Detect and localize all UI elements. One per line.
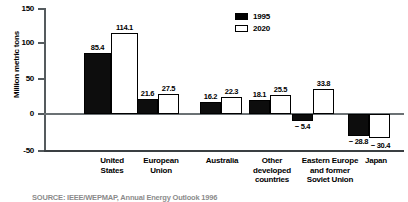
bar-value-2020-united-states: 114.1 [102, 23, 147, 32]
legend-swatch-1995-icon [235, 13, 248, 20]
y-tick-label-0: 0 [8, 109, 34, 118]
x-category-label-japan: Japan [348, 156, 404, 166]
bar-2020-european-union [158, 94, 179, 114]
bar-2020-other-developed-countries [270, 95, 291, 114]
bar-value-2020-european-union: 27.5 [147, 84, 190, 93]
bar-1995-japan [348, 114, 369, 136]
bar-1995-united-states [84, 53, 111, 114]
x-category-line: European [129, 156, 193, 166]
y-axis-title: Million metric tons [12, 5, 21, 125]
x-category-line: Union [129, 166, 193, 176]
y-tick-label-neg50: -50 [8, 146, 34, 155]
bar-1995-other-developed-countries [249, 100, 270, 114]
x-category-label-european-union: European Union [129, 156, 193, 175]
source-note: SOURCE: IEEE/WEPMAP, Annual Energy Outlo… [32, 193, 217, 202]
y-tick-label-100: 100 [8, 38, 34, 47]
bar-value-2020-eastern-europe: 33.8 [302, 79, 345, 88]
x-axis-line [44, 150, 404, 152]
bar-1995-australia [200, 102, 221, 114]
chart-legend: 1995 2020 [235, 10, 270, 34]
legend-item-1995: 1995 [235, 10, 270, 22]
legend-swatch-2020-icon [235, 25, 248, 32]
y-tick-label-50: 50 [8, 74, 34, 83]
x-category-line: Soviet Union [292, 175, 368, 185]
bar-1995-european-union [137, 99, 158, 114]
legend-label-1995: 1995 [253, 12, 270, 21]
x-category-line: and former [292, 166, 368, 176]
bar-2020-eastern-europe [313, 89, 334, 114]
legend-item-2020: 2020 [235, 22, 270, 34]
bar-value-2020-japan: − 30.4 [359, 141, 402, 150]
bar-2020-united-states [111, 33, 138, 114]
bar-2020-japan [369, 114, 390, 138]
y-tick-label-150: 150 [8, 4, 34, 13]
bar-2020-australia [221, 97, 242, 114]
bar-chart: Million metric tons 150 100 50 0 -50 85.… [0, 0, 408, 202]
x-category-line: Japan [348, 156, 404, 166]
bar-value-2020-other-developed-countries: 25.5 [259, 85, 302, 94]
y-axis-line [44, 8, 46, 151]
bar-value-1995-eastern-europe: − 5.4 [281, 122, 324, 131]
bar-1995-eastern-europe [292, 114, 313, 121]
legend-label-2020: 2020 [253, 24, 270, 33]
